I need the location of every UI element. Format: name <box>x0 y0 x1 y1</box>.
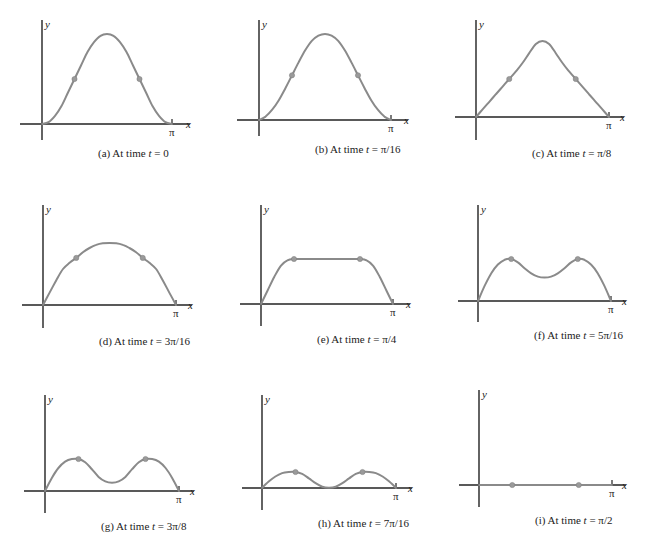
y-axis-label: y <box>44 18 50 30</box>
y-axis-label: y <box>480 203 486 215</box>
panel-h: yxπ(h) At time t = 7π/16 <box>242 393 413 530</box>
marker-dot-2 <box>140 255 145 260</box>
y-axis-label: y <box>261 18 267 30</box>
panel-caption: (g) At time t = 3π/8 <box>101 520 187 533</box>
panel-a: yxπ(a) At time t = 0 <box>20 18 191 160</box>
y-axis-label: y <box>264 393 270 405</box>
x-axis-label: x <box>621 479 627 491</box>
panel-caption: (d) At time t = 3π/16 <box>99 335 190 348</box>
x-axis-label: x <box>403 114 409 126</box>
pi-label: π <box>608 303 614 315</box>
marker-dot-2 <box>360 469 365 474</box>
marker-dot-1 <box>510 482 515 487</box>
pi-label: π <box>173 307 179 319</box>
string-curve <box>42 34 172 124</box>
marker-dot-2 <box>143 456 148 461</box>
marker-dot-2 <box>357 256 362 261</box>
string-curve <box>43 243 176 305</box>
x-axis-label: x <box>621 295 627 307</box>
x-axis-label: x <box>185 118 191 130</box>
pi-label: π <box>393 490 399 502</box>
y-axis-label: y <box>45 203 51 215</box>
pi-label: π <box>388 122 394 134</box>
marker-dot-1 <box>76 456 81 461</box>
marker-dot-1 <box>293 469 298 474</box>
panel-d: yxπ(d) At time t = 3π/16 <box>22 203 193 348</box>
panel-caption: (b) At time t = π/16 <box>315 143 401 156</box>
string-curve <box>261 259 393 304</box>
marker-dot-2 <box>576 482 581 487</box>
panel-c: yxπ(c) At time t = π/8 <box>455 18 625 160</box>
string-curve <box>45 459 179 491</box>
marker-dot-1 <box>509 256 514 261</box>
marker-dot-2 <box>137 76 142 81</box>
x-axis-label: x <box>619 111 625 123</box>
string-curve <box>478 259 611 301</box>
y-axis-label: y <box>263 203 269 215</box>
string-curve <box>476 41 609 117</box>
y-axis-label: y <box>481 388 487 400</box>
y-axis-label: y <box>478 18 484 30</box>
vibrating-string-figure: yxπ(a) At time t = 0yxπ(b) At time t = π… <box>0 0 652 543</box>
marker-dot-2 <box>355 73 360 78</box>
panel-b: yxπ(b) At time t = π/16 <box>237 18 409 156</box>
marker-dot-2 <box>575 256 580 261</box>
string-curve <box>259 34 391 120</box>
x-axis-label: x <box>407 482 413 494</box>
panel-e: yxπ(e) At time t = π/4 <box>240 203 411 346</box>
pi-label: π <box>169 126 175 138</box>
marker-dot-1 <box>72 76 77 81</box>
pi-label: π <box>609 487 615 499</box>
panel-f: yxπ(f) At time t = 5π/16 <box>458 203 627 342</box>
pi-label: π <box>390 306 396 318</box>
panel-caption: (a) At time t = 0 <box>98 147 169 160</box>
marker-dot-1 <box>74 255 79 260</box>
marker-dot-2 <box>573 76 578 81</box>
x-axis-label: x <box>187 299 193 311</box>
panel-caption: (e) At time t = π/4 <box>317 333 397 346</box>
x-axis-label: x <box>189 485 195 497</box>
string-curve <box>262 472 396 488</box>
panel-caption: (i) At time t = π/2 <box>535 514 612 527</box>
pi-label: π <box>606 119 612 131</box>
panel-caption: (c) At time t = π/8 <box>532 147 612 160</box>
panel-caption: (f) At time t = 5π/16 <box>534 329 624 342</box>
marker-dot-1 <box>291 256 296 261</box>
panel-caption: (h) At time t = 7π/16 <box>318 517 409 530</box>
marker-dot-1 <box>289 73 294 78</box>
pi-label: π <box>176 493 182 505</box>
x-axis-label: x <box>405 298 411 310</box>
marker-dot-1 <box>507 76 512 81</box>
y-axis-label: y <box>47 393 53 405</box>
panel-i: yxπ(i) At time t = π/2 <box>459 388 627 527</box>
panel-g: yxπ(g) At time t = 3π/8 <box>24 393 195 533</box>
